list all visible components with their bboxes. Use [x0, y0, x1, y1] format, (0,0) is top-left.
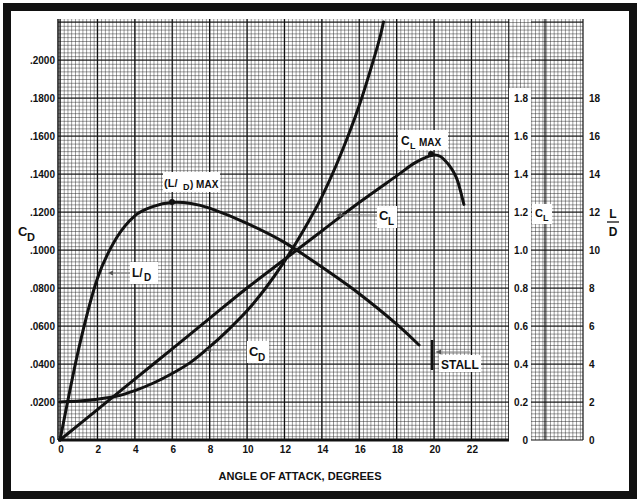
x-axis-title: ANGLE OF ATTACK, DEGREES	[219, 470, 382, 482]
x-tick-label: 18	[392, 444, 404, 455]
x-tick-label: 6	[170, 444, 176, 455]
cd-axis-ticks: 0.0200.0400.0600.0800.1000.1200.1400.160…	[30, 55, 55, 446]
ld-tick-label: 12	[589, 207, 601, 218]
cd-tick-label: .1600	[30, 131, 55, 142]
main-grid	[58, 19, 509, 440]
x-tick-label: 0	[58, 444, 64, 455]
svg-text:D: D	[609, 225, 618, 239]
cd-tick-label: 0	[49, 435, 55, 446]
x-tick-label: 10	[242, 444, 254, 455]
svg-text:D: D	[27, 231, 35, 243]
cl-tick-label: 1.0	[514, 245, 528, 256]
ld-tick-label: 16	[589, 131, 601, 142]
ld-tick-label: 14	[589, 169, 601, 180]
x-tick-label: 8	[208, 444, 214, 455]
ld-max-label: (L/ D ) MAX	[163, 172, 220, 192]
right-grid	[531, 19, 583, 440]
svg-text:D: D	[258, 352, 265, 363]
svg-text:(L/: (L/	[164, 177, 177, 189]
x-tick-label: 2	[96, 444, 102, 455]
cd-tick-label: .1200	[30, 207, 55, 218]
ld-tick-label: 6	[589, 321, 595, 332]
cl-tick-label: 1.8	[514, 93, 528, 104]
cl-tick-label: 1.2	[514, 207, 528, 218]
svg-text:L: L	[543, 213, 549, 223]
cl-tick-label: 0.8	[514, 283, 528, 294]
x-tick-label: 4	[133, 444, 139, 455]
cd-tick-label: .1800	[30, 93, 55, 104]
svg-text:STALL: STALL	[441, 358, 479, 372]
cd-tick-label: .0200	[30, 397, 55, 408]
x-tick-label: 20	[429, 444, 441, 455]
ld-tick-label: 10	[589, 245, 601, 256]
cd-tick-label: .0600	[30, 321, 55, 332]
cl-tick-label: 1.4	[514, 169, 528, 180]
cl-tick-label: 1.6	[514, 131, 528, 142]
ld-tick-label: 8	[589, 283, 595, 294]
svg-text:D: D	[144, 272, 151, 283]
ld-axis-title: L D	[607, 207, 619, 239]
svg-text:) MAX: ) MAX	[190, 179, 219, 190]
cl-tick-label: 0.2	[514, 397, 528, 408]
cd-tick-label: .0400	[30, 359, 55, 370]
svg-text:L: L	[609, 207, 616, 221]
svg-text:MAX: MAX	[419, 137, 442, 148]
ld-axis-ticks: 024681012141618	[589, 93, 601, 446]
x-axis-ticks: 0246810121416182022	[58, 444, 478, 455]
cd-tick-label: .1000	[30, 245, 55, 256]
cl-max-label: C L MAX	[398, 130, 448, 151]
svg-text:L/: L/	[132, 266, 143, 280]
cd-tick-label: .2000	[30, 55, 55, 66]
ld-tick-label: 18	[589, 93, 601, 104]
cl-axis-title: C L	[532, 204, 552, 224]
cd-tick-label: .1400	[30, 169, 55, 180]
svg-text:C: C	[535, 207, 543, 219]
ld-tick-label: 0	[589, 435, 595, 446]
cd-tick-label: .0800	[30, 283, 55, 294]
cl-tick-label: 0	[522, 435, 528, 446]
cl-tick-label: 0.4	[514, 359, 528, 370]
svg-text:C: C	[401, 134, 410, 148]
x-tick-label: 16	[355, 444, 367, 455]
svg-text:D: D	[183, 182, 190, 192]
cl-tick-label: 0.6	[514, 321, 528, 332]
ld-max-point	[169, 199, 175, 205]
cd-axis-title: C D	[18, 224, 35, 243]
cl-max-point	[428, 151, 434, 157]
top-grid-strip	[509, 19, 531, 88]
ld-tick-label: 2	[589, 397, 595, 408]
svg-text:L: L	[410, 141, 416, 151]
ld-tick-label: 4	[589, 359, 595, 370]
x-tick-label: 12	[280, 444, 292, 455]
x-tick-label: 14	[317, 444, 329, 455]
x-tick-label: 22	[467, 444, 479, 455]
svg-text:L: L	[388, 216, 394, 227]
